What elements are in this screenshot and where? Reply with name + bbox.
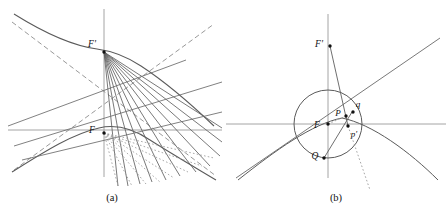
label-point-Q: Q [312, 151, 319, 161]
point-P-marker [344, 114, 347, 117]
label-focus-F-prime: F' [87, 39, 97, 49]
label-point-P: P [334, 108, 341, 118]
caption-panel-a: (a) [0, 192, 224, 203]
figure-panel-a: F' F (a) [0, 0, 224, 207]
point-F-marker [326, 122, 329, 125]
point-Q-marker [322, 156, 325, 159]
label-focus-F: F [88, 125, 95, 135]
focus-point-F-prime [102, 50, 105, 53]
point-p-prime-marker [346, 124, 349, 127]
label-point-p-prime: p' [350, 129, 359, 139]
focus-point-F [102, 131, 105, 134]
panel-a-drawing: F' F [0, 0, 224, 207]
figure-panel-b: F' P q p' F Q (b) [224, 0, 448, 207]
parabola-curve [238, 118, 438, 180]
label-point-q: q [356, 99, 361, 109]
panel-b-drawing: F' P q p' F Q [224, 0, 448, 207]
point-q-marker [351, 110, 354, 113]
ray-pencil-from-F-prime [104, 52, 222, 186]
label-focus-F: F [313, 120, 320, 130]
figure-root: F' F (a) [0, 0, 448, 207]
label-focus-F-prime: F' [314, 39, 324, 49]
point-F-prime-marker [328, 44, 331, 47]
caption-panel-b: (b) [224, 192, 448, 203]
